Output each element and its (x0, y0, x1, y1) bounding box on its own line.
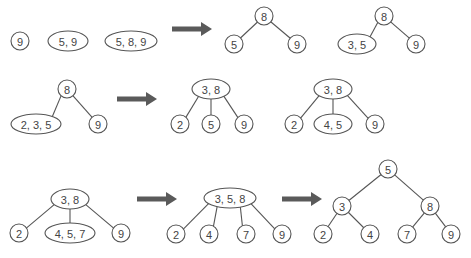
tree-edge (224, 96, 238, 117)
node-label: 9 (448, 229, 454, 241)
nodes-layer: 95, 95, 8, 985983, 5982, 3, 593, 82593, … (10, 7, 460, 243)
tree-node-multi-key: 2, 3, 5 (11, 114, 61, 134)
tree-node-single-key: 3 (333, 197, 351, 215)
tree-node-single-key: 2 (314, 225, 332, 243)
node-label: 9 (413, 39, 419, 51)
tree-node-single-key: 9 (366, 115, 384, 133)
tree-node-single-key: 9 (288, 35, 306, 53)
tree-node-single-key: 7 (398, 225, 416, 243)
tree-node-single-key: 9 (273, 225, 291, 243)
tree-node-single-key: 4 (200, 225, 218, 243)
node-label: 9 (372, 119, 378, 131)
tree-edge (348, 212, 364, 228)
node-label: 3, 8 (202, 84, 220, 96)
tree-node-multi-key: 3, 8 (51, 189, 89, 209)
node-label: 8 (261, 11, 267, 23)
tree-edge (328, 213, 337, 226)
tree-node-multi-key: 3, 8 (192, 79, 230, 99)
right-arrow-icon (137, 192, 177, 206)
node-label: 9 (294, 39, 300, 51)
tree-node-multi-key: 5, 8, 9 (105, 31, 157, 51)
tree-node-single-key: 8 (255, 7, 273, 25)
tree-edge (395, 175, 424, 200)
tree-node-multi-key: 3, 8 (314, 79, 352, 99)
node-label: 9 (95, 119, 101, 131)
node-label: 9 (279, 229, 285, 241)
tree-node-single-key: 9 (442, 225, 460, 243)
right-arrow-icon (172, 22, 212, 36)
tree-edge (435, 213, 445, 227)
node-label: 3, 5, 8 (215, 193, 246, 205)
node-label: 8 (381, 11, 387, 23)
node-label: 5, 9 (59, 36, 77, 48)
node-label: 7 (404, 229, 410, 241)
tree-node-single-key: 9 (235, 115, 253, 133)
tree-edge (52, 96, 61, 117)
right-arrow-icon (117, 92, 157, 106)
node-label: 3, 5 (348, 39, 366, 51)
tree-edge (85, 204, 113, 228)
tree-edge (347, 95, 368, 118)
tree-node-single-key: 5 (379, 160, 397, 178)
node-label: 5 (385, 164, 391, 176)
tree-edge (73, 96, 92, 118)
node-label: 9 (17, 36, 23, 48)
node-label: 4, 5, 7 (55, 228, 86, 240)
tree-node-multi-key: 3, 5, 8 (204, 188, 256, 208)
node-label: 8 (427, 201, 433, 213)
tree-edge (271, 22, 291, 39)
tree-node-single-key: 9 (407, 35, 425, 53)
tree-node-multi-key: 4, 5, 7 (45, 223, 95, 243)
tree-node-single-key: 2 (10, 224, 28, 242)
node-label: 5 (231, 39, 237, 51)
node-label: 8 (64, 84, 70, 96)
tree-node-single-key: 5 (202, 115, 220, 133)
node-label: 2 (177, 119, 183, 131)
tree-node-single-key: 9 (11, 32, 29, 50)
node-label: 9 (241, 119, 247, 131)
tree-node-single-key: 8 (421, 197, 439, 215)
node-label: 5, 8, 9 (116, 36, 147, 48)
tree-node-single-key: 5 (225, 35, 243, 53)
tree-node-multi-key: 4, 5 (314, 114, 352, 134)
tree-node-single-key: 9 (89, 115, 107, 133)
node-label: 3 (339, 201, 345, 213)
tree-node-multi-key: 5, 9 (48, 31, 88, 51)
tree-edge (301, 96, 320, 119)
tree-edge (349, 175, 381, 201)
node-label: 7 (243, 229, 249, 241)
tree-node-single-key: 2 (167, 225, 185, 243)
tree-edge (413, 213, 425, 227)
tree-node-single-key: 2 (171, 115, 189, 133)
node-label: 4, 5 (324, 119, 342, 131)
node-label: 5 (208, 119, 214, 131)
tree-edge (370, 22, 378, 37)
node-label: 2 (16, 228, 22, 240)
node-label: 9 (118, 228, 124, 240)
tree-insertion-diagram: 95, 95, 8, 985983, 5982, 3, 593, 82593, … (0, 0, 471, 258)
node-label: 2, 3, 5 (21, 119, 52, 131)
node-label: 2 (291, 119, 297, 131)
tree-node-single-key: 4 (361, 225, 379, 243)
node-label: 3, 8 (324, 84, 342, 96)
node-label: 2 (320, 229, 326, 241)
node-label: 4 (367, 229, 373, 241)
tree-node-single-key: 7 (237, 225, 255, 243)
tree-node-single-key: 8 (58, 80, 76, 98)
tree-edge (251, 204, 275, 229)
tree-edge (240, 22, 257, 38)
right-arrow-icon (282, 192, 322, 206)
tree-node-single-key: 8 (375, 7, 393, 25)
tree-edge (186, 96, 199, 117)
node-label: 4 (206, 229, 212, 241)
tree-node-multi-key: 3, 5 (338, 34, 376, 54)
tree-node-single-key: 2 (285, 115, 303, 133)
tree-edge (213, 206, 217, 226)
tree-node-single-key: 9 (112, 224, 130, 242)
tree-edge (26, 204, 54, 228)
tree-edge (240, 207, 242, 226)
node-label: 3, 8 (61, 194, 79, 206)
tree-edge (183, 203, 208, 229)
node-label: 2 (173, 229, 179, 241)
tree-edge (391, 22, 410, 38)
